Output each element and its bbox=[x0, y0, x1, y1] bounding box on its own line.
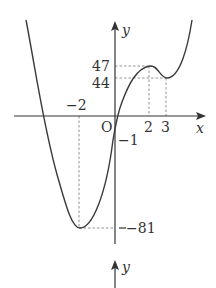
tick-label-y-neg1: −1 bbox=[118, 132, 139, 148]
second-y-axis-label: y bbox=[121, 259, 131, 275]
tick-label-x2: 2 bbox=[144, 119, 153, 135]
tick-label-y47: 47 bbox=[92, 58, 110, 74]
tick-label-y-neg81: −81 bbox=[126, 220, 156, 236]
function-graph: y x O 47 44 −2 2 3 −1 −81 y bbox=[0, 0, 216, 288]
x-axis-label: x bbox=[196, 120, 204, 136]
origin-label: O bbox=[101, 119, 112, 135]
y-axis-label: y bbox=[121, 22, 131, 38]
tick-label-y44: 44 bbox=[92, 75, 110, 91]
tick-label-x-neg2: −2 bbox=[66, 97, 87, 113]
tick-label-x3: 3 bbox=[161, 119, 170, 135]
